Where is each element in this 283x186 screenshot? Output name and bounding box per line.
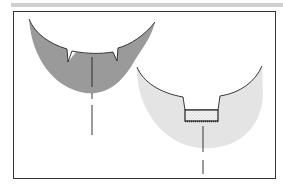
stippled-insert bbox=[185, 110, 218, 121]
left-section bbox=[29, 19, 155, 140]
diagram-canvas bbox=[0, 0, 283, 186]
right-section bbox=[137, 66, 263, 176]
right-section-body bbox=[137, 66, 263, 148]
